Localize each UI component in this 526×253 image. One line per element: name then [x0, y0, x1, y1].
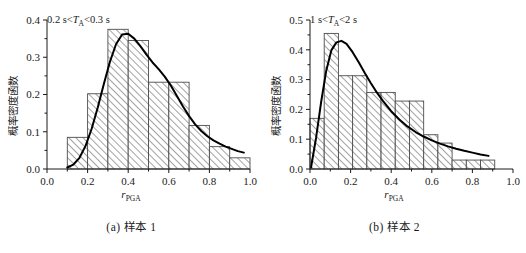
x-axis-label-b: rPGA [384, 188, 404, 203]
y-axis-label-b: 概率密度函数 [270, 75, 282, 136]
y-axis-label-a: 概率密度函数 [7, 75, 19, 136]
figure-container: 0.00.20.40.60.81.00.00.10.20.30.4 0.2 s<… [0, 0, 526, 253]
panel-caption-a: (a) 样本 1 [0, 218, 263, 234]
panel-caption-b: (b) 样本 2 [263, 218, 526, 234]
y-tick-label: 0.3 [26, 51, 40, 63]
histogram-bar [67, 137, 87, 169]
x-tick-label: 0.6 [425, 175, 439, 187]
histogram-bar [149, 82, 169, 169]
y-tick-label: 0.1 [26, 126, 40, 138]
histogram-bar [481, 160, 495, 169]
y-tick-label: 0.3 [289, 73, 303, 85]
x-tick-label: 0.0 [40, 175, 54, 187]
x-tick-label: 0.2 [81, 175, 95, 187]
y-tick-label: 0.0 [289, 163, 303, 175]
x-tick-label: 0.8 [203, 175, 217, 187]
x-tick-label: 0.0 [303, 175, 317, 187]
histogram-bars-a [67, 29, 250, 169]
histogram-bar [452, 160, 466, 169]
chart-panel-b: 0.00.20.40.60.81.00.00.10.20.30.40.5 1 s… [263, 0, 526, 253]
y-tick-label: 0.4 [26, 14, 40, 26]
histogram-bar [108, 29, 128, 169]
annotation-prefix: 1 s< [310, 14, 328, 25]
x-axis-label-sub-b: PGA [389, 194, 405, 203]
x-tick-label: 0.4 [384, 175, 398, 187]
histogram-bar [189, 125, 209, 169]
histogram-bar [395, 101, 409, 169]
x-axis-label-sub-a: PGA [126, 194, 142, 203]
x-axis-label-a: rPGA [121, 188, 141, 203]
histogram-bar [381, 92, 395, 169]
histogram-bars-b [310, 33, 495, 169]
histogram-bar [230, 158, 250, 169]
histogram-bar [128, 40, 148, 169]
x-tick-label: 1.0 [243, 175, 257, 187]
x-tick-label: 1.0 [506, 175, 520, 187]
x-tick-label: 0.8 [466, 175, 480, 187]
y-tick-label: 0.2 [26, 88, 40, 100]
y-tick-label: 0.1 [289, 133, 303, 145]
x-tick-label: 0.4 [121, 175, 135, 187]
y-tick-label: 0.4 [289, 44, 303, 56]
histogram-bar [209, 147, 229, 169]
x-tick-label: 0.6 [162, 175, 176, 187]
histogram-bar [367, 92, 381, 169]
annotation-text-b: 1 s<TA<2 s [310, 14, 357, 28]
plot-area-b: 0.00.20.40.60.81.00.00.10.20.30.40.5 1 s… [263, 6, 526, 206]
histogram-chart-a: 0.00.20.40.60.81.00.00.10.20.30.4 0.2 s<… [0, 6, 263, 206]
y-tick-label: 0.0 [26, 163, 40, 175]
annotation-prefix: 0.2 s< [47, 14, 73, 25]
annotation-suffix: <0.3 s [84, 14, 110, 25]
histogram-bar [466, 160, 480, 169]
x-tick-label: 0.2 [344, 175, 358, 187]
y-tick-label: 0.5 [289, 14, 303, 26]
chart-panel-a: 0.00.20.40.60.81.00.00.10.20.30.4 0.2 s<… [0, 0, 263, 253]
annotation-suffix: <2 s [339, 14, 357, 25]
histogram-chart-b: 0.00.20.40.60.81.00.00.10.20.30.40.5 1 s… [263, 6, 526, 206]
histogram-bar [338, 76, 352, 169]
y-tick-label: 0.2 [289, 103, 303, 115]
plot-area-a: 0.00.20.40.60.81.00.00.10.20.30.4 0.2 s<… [0, 6, 263, 206]
annotation-text-a: 0.2 s<TA<0.3 s [47, 14, 110, 28]
histogram-bar [353, 76, 367, 169]
histogram-bar [169, 82, 189, 169]
